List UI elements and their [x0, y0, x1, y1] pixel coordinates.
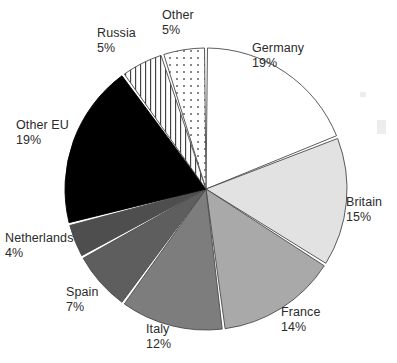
slice-label-other-eu: Other EU 19%: [16, 118, 69, 147]
slice-label-netherlands: Netherlands 4%: [5, 231, 74, 260]
slice-label-name: Netherlands: [5, 231, 74, 246]
slice-label-value: 5%: [162, 23, 194, 38]
slice-label-spain: Spain 7%: [66, 285, 98, 314]
slice-label-name: Other EU: [16, 118, 69, 133]
slice-label-value: 14%: [281, 320, 321, 335]
slice-label-name: Spain: [66, 285, 98, 300]
slice-label-value: 19%: [16, 133, 69, 148]
slice-label-name: France: [281, 305, 321, 320]
slice-label-value: 7%: [66, 300, 98, 315]
pie-slices-group: [65, 48, 347, 330]
slice-label-italy: Italy 12%: [146, 322, 171, 351]
pie-chart-svg: [0, 0, 397, 363]
slice-label-name: Britain: [346, 195, 382, 210]
slice-label-name: Italy: [146, 322, 171, 337]
slice-label-france: France 14%: [281, 305, 321, 334]
slice-label-russia: Russia 5%: [97, 26, 136, 55]
slice-label-value: 5%: [97, 41, 136, 56]
slice-label-name: Germany: [252, 41, 304, 56]
pie-chart-page: Germany 19% Britain 15% France 14% Italy…: [0, 0, 397, 363]
slice-label-name: Other: [162, 8, 194, 23]
slice-label-value: 4%: [5, 246, 74, 261]
slice-label-britain: Britain 15%: [346, 195, 382, 224]
slice-label-germany: Germany 19%: [252, 41, 304, 70]
slice-label-value: 15%: [346, 210, 382, 225]
slice-label-value: 12%: [146, 337, 171, 352]
slice-label-value: 19%: [252, 56, 304, 71]
slice-label-other: Other 5%: [162, 8, 194, 37]
slice-label-name: Russia: [97, 26, 136, 41]
